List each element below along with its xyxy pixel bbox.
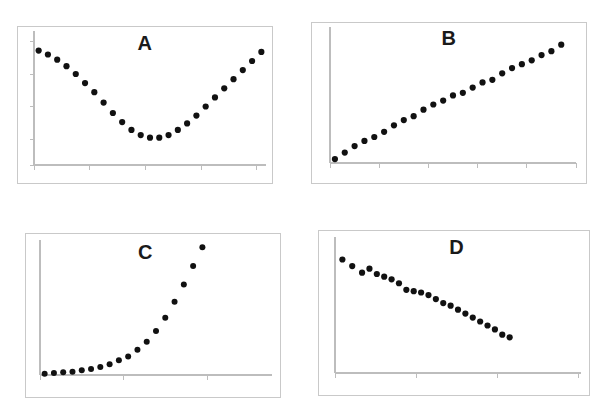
panel-c: C xyxy=(25,233,281,398)
panel-a: A xyxy=(17,26,273,184)
panel-cell-d: D xyxy=(302,206,604,412)
panel-label-d: D xyxy=(449,237,464,257)
panel-cell-a: A xyxy=(0,0,302,206)
panel-label-a: A xyxy=(138,33,153,53)
panel-cell-c: C xyxy=(0,206,302,412)
plot-area-c xyxy=(26,234,280,397)
panel-label-b: B xyxy=(442,28,457,48)
panel-cell-b: B xyxy=(302,0,604,206)
panel-b: B xyxy=(311,22,587,184)
scatter-plot-c xyxy=(26,234,280,397)
figure-panel-grid: A B C D xyxy=(0,0,604,412)
panel-d: D xyxy=(318,230,590,396)
panel-label-c: C xyxy=(138,242,153,262)
